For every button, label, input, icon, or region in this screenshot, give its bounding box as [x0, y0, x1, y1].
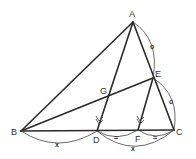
mark-bd: x	[55, 141, 59, 148]
segment-ab	[21, 22, 133, 131]
label-c: C	[176, 127, 183, 137]
label-g: G	[100, 86, 107, 96]
label-e: E	[155, 69, 161, 79]
mark-ec: o	[169, 98, 173, 105]
label-a: A	[129, 9, 135, 19]
label-f: F	[135, 134, 141, 144]
mark-ae: o	[150, 43, 154, 50]
segment-ad	[97, 22, 133, 131]
arc-bd	[21, 131, 97, 143]
label-b: B	[11, 127, 17, 137]
segment-ef	[138, 78, 153, 130]
mark-df: =	[114, 134, 118, 141]
mark-dc: x	[131, 145, 135, 152]
geometry-diagram: o o x x = = A B C D E F G	[0, 0, 196, 159]
label-d: D	[93, 135, 100, 145]
mark-fc: =	[153, 134, 157, 141]
segment-be	[21, 78, 153, 131]
